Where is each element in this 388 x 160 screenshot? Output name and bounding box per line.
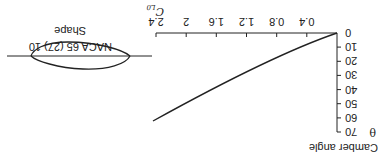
y-tick-30: 30	[345, 69, 361, 81]
inset-title: NACA 65 (27) 10	[29, 41, 112, 52]
y-axis-title: Camber angle	[309, 142, 378, 153]
x-tick-2: 2	[183, 16, 189, 28]
chart-figure: 0 10 20 30 40 50 60 70 θ Camber angle 0.…	[0, 0, 388, 160]
y-tick-10: 10	[345, 41, 361, 53]
y-tick-0: 0	[345, 27, 361, 39]
x-axis-title-sub: L0	[146, 3, 155, 11]
y-tick-50: 50	[345, 98, 361, 110]
data-curve	[153, 33, 337, 121]
y-tick-40: 40	[345, 84, 361, 96]
x-tick-1.6: 1.6	[209, 16, 224, 28]
y-tick-70: 70	[345, 126, 361, 138]
x-tick-0.4: 0.4	[299, 16, 314, 28]
y-tick-20: 20	[345, 55, 361, 67]
chart-plot	[0, 0, 388, 160]
x-tick-0.8: 0.8	[269, 16, 284, 28]
x-axis-ticks	[156, 33, 307, 37]
x-axis-title: CL0	[146, 3, 164, 17]
y-axis-symbol: θ	[369, 126, 376, 137]
x-tick-1.2: 1.2	[239, 16, 254, 28]
y-axis-ticks	[337, 47, 341, 132]
x-axis-title-main: C	[156, 5, 164, 18]
y-tick-60: 60	[345, 112, 361, 124]
inset-caption: Shape	[54, 25, 86, 36]
